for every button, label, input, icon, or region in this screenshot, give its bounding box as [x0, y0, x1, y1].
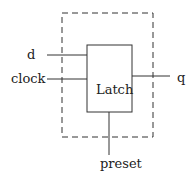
latch-label: Latch — [96, 82, 134, 97]
clock-label: clock — [11, 71, 46, 86]
preset-label: preset — [100, 156, 143, 171]
latch-diagram: Latch d clock q preset — [0, 0, 193, 179]
diagram-canvas: Latch d clock q preset — [0, 0, 193, 179]
latch-block — [87, 45, 132, 112]
q-label: q — [177, 70, 185, 85]
d-label: d — [27, 47, 35, 62]
